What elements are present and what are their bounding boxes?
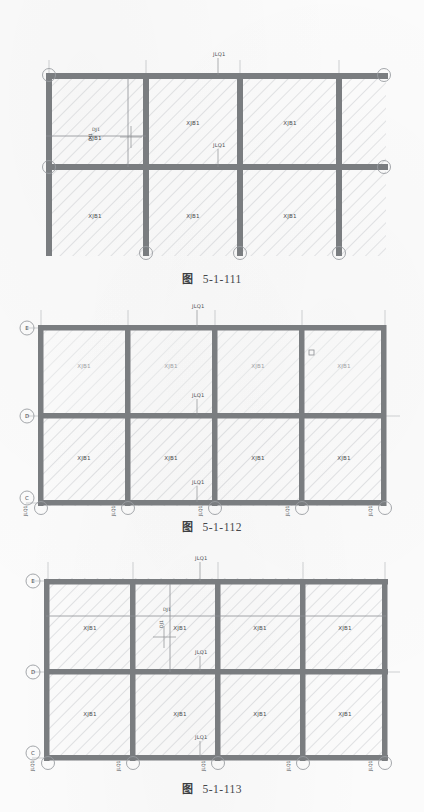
- caption-number: 5-1-113: [203, 783, 242, 795]
- detail-label-dj1-a: DJ1: [92, 127, 100, 132]
- axis-label-c: C: [25, 495, 29, 501]
- slab-label-upper-1: XJB1: [83, 625, 97, 632]
- slab-label-upper-4: XJB1: [338, 625, 352, 632]
- slab-label-lower-4: XJB1: [338, 711, 352, 718]
- slab-label-upper-2: XJB1: [164, 363, 178, 370]
- bottom-beam-label-3: JLQ1: [198, 505, 203, 517]
- slab-label-lower-2: XJB1: [164, 455, 178, 462]
- document-page: JLQ1 JLQ1 DJ1 DJ1 XJB1 XJB1 XJB1 XJB1 XJ…: [0, 0, 424, 812]
- bottom-beam-label-2: JLQ1: [111, 505, 116, 517]
- beam-label-middle: JLQ1: [212, 142, 226, 149]
- slab-label-lower-2: XJB1: [173, 711, 187, 718]
- bottom-beam-label-4: JLQ1: [285, 505, 290, 517]
- slab-label-upper-4: XJB1: [337, 363, 351, 370]
- caption-number: 5-1-111: [203, 273, 242, 285]
- slab-label-r1c1: XJB1: [88, 135, 102, 142]
- axis-label-d: D: [25, 413, 29, 419]
- slab-label-lower-3: XJB1: [253, 711, 267, 718]
- slab-label-r2c2: XJB1: [186, 213, 200, 220]
- figure-5-1-111: JLQ1 JLQ1 DJ1 DJ1 XJB1 XJB1 XJB1 XJB1 XJ…: [0, 48, 424, 298]
- figure-2-caption: 图5-1-112: [0, 518, 424, 534]
- bottom-beam-label-1: JLQ1: [23, 505, 28, 517]
- bottom-beam-label-3: JLQ1: [201, 760, 206, 772]
- figure-1-caption: 图5-1-111: [0, 270, 424, 286]
- beam-label-lower: JLQ1: [191, 479, 205, 486]
- beam-label-top: JLQ1: [191, 303, 205, 310]
- caption-word: 图: [182, 273, 194, 286]
- figure-5-1-112: E D C JLQ1 JLQ1 J: [0, 300, 424, 545]
- axis-markers: E D C: [20, 321, 34, 505]
- beam-label-lower: JLQ1: [194, 734, 208, 741]
- axis-label-c: C: [31, 750, 35, 756]
- figure-3-drawing: E D C JLQ1 JLQ1 J: [0, 548, 424, 788]
- caption-word: 图: [182, 783, 194, 796]
- slab-label-lower-1: XJB1: [77, 455, 91, 462]
- beam-label-middle: JLQ1: [194, 649, 208, 656]
- slab-label-upper-1: XJB1: [77, 363, 91, 370]
- detail-label-dj1-b: DJ1: [159, 620, 164, 628]
- slab-label-upper-3: XJB1: [251, 363, 265, 370]
- figure-2-drawing: E D C JLQ1 JLQ1 J: [0, 300, 424, 525]
- slab-label-r1c2: XJB1: [186, 120, 200, 127]
- slab-label-upper-3: XJB1: [253, 625, 267, 632]
- caption-word: 图: [182, 521, 194, 534]
- axis-label-d: D: [31, 669, 35, 675]
- figure-1-drawing: JLQ1 JLQ1 DJ1 DJ1 XJB1 XJB1 XJB1 XJB1 XJ…: [0, 48, 424, 278]
- bottom-beam-label-5: JLQ1: [368, 760, 373, 772]
- bottom-beam-label-1: JLQ1: [30, 760, 35, 772]
- slab-label-lower-4: XJB1: [337, 455, 351, 462]
- axis-label-e: E: [31, 578, 35, 584]
- slab-label-r1c3: XJB1: [283, 120, 297, 127]
- slab-label-upper-2: XJB1: [173, 625, 187, 632]
- beam-label-top: JLQ1: [194, 555, 208, 562]
- bottom-beam-label-5: JLQ1: [368, 505, 373, 517]
- detail-label-dj1-a: DJ1: [163, 607, 171, 612]
- bottom-beam-label-4: JLQ1: [286, 760, 291, 772]
- beam-label-middle: JLQ1: [191, 392, 205, 399]
- slab-label-r2c1: XJB1: [88, 213, 102, 220]
- bottom-beam-label-2: JLQ1: [116, 760, 121, 772]
- beam-label-top: JLQ1: [212, 51, 226, 58]
- figure-3-caption: 图5-1-113: [0, 780, 424, 796]
- slab-label-lower-1: XJB1: [83, 711, 97, 718]
- axis-markers: E D C: [26, 574, 40, 760]
- caption-number: 5-1-112: [203, 521, 242, 533]
- figure-5-1-113: E D C JLQ1 JLQ1 J: [0, 548, 424, 812]
- slab-label-r2c3: XJB1: [283, 213, 297, 220]
- slab-label-lower-3: XJB1: [251, 455, 265, 462]
- axis-label-e: E: [25, 325, 29, 331]
